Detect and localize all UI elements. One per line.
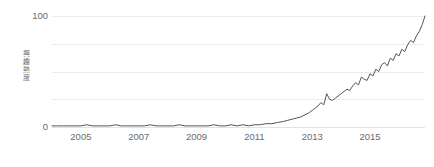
y-tick-label-100: 100 — [22, 11, 48, 20]
trends-line-chart: 興趣熱度 100 0 200520072009201120132015 — [0, 0, 434, 167]
y-tick-label-0: 0 — [22, 122, 48, 131]
x-tick-label-2013: 2013 — [302, 131, 323, 142]
x-tick-label-2015: 2015 — [359, 131, 380, 142]
x-tick-label-2011: 2011 — [244, 131, 264, 142]
y-axis-ticks: 100 0 — [18, 0, 48, 167]
gridline-0 — [52, 127, 425, 128]
x-axis-ticks: 200520072009201120132015 — [52, 131, 425, 151]
x-tick-label-2007: 2007 — [128, 131, 149, 142]
x-tick-label-2005: 2005 — [70, 131, 91, 142]
plot-area — [52, 16, 425, 127]
series-line-path — [52, 16, 425, 126]
series-line-chart — [52, 16, 425, 127]
x-tick-label-2009: 2009 — [186, 131, 207, 142]
